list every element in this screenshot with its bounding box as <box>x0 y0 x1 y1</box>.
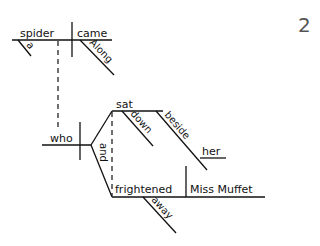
page-number: 2 <box>298 13 311 37</box>
verb-word: came <box>77 27 108 40</box>
subject-word: spider <box>20 27 55 40</box>
conjunction-word: and <box>98 143 109 162</box>
verb-frightened-word: frightened <box>115 183 172 196</box>
fork-upper <box>91 111 112 145</box>
sentence-diagram: 2 spider came a Along who and sat down b… <box>0 0 320 246</box>
prep-object-word: her <box>202 145 221 158</box>
down-word: down <box>129 108 155 135</box>
main-clause: spider came a Along <box>12 22 115 75</box>
relative-clause: who and sat down beside her frightened M… <box>42 98 265 233</box>
beside-line <box>156 111 207 170</box>
relative-subject-word: who <box>50 132 73 145</box>
verb-modifier-word: Along <box>88 37 116 65</box>
direct-object-word: Miss Muffet <box>190 183 253 196</box>
verb-sat-word: sat <box>116 98 133 111</box>
